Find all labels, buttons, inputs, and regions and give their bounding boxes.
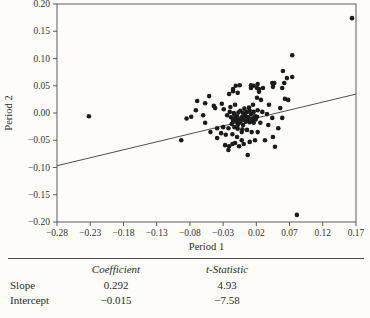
data-point: [237, 144, 242, 149]
data-point: [249, 130, 254, 135]
data-point: [235, 135, 240, 140]
data-point: [237, 83, 242, 88]
data-point: [251, 103, 256, 108]
data-point: [240, 127, 245, 132]
intercept-t-statistic-value: −7.58: [175, 294, 279, 307]
data-point: [290, 75, 295, 80]
y-tick-label: −0.20: [28, 217, 50, 227]
regression-table: Coefficient t-Statistic Slope 0.292 4.93…: [0, 258, 370, 307]
y-tick-label: 0.20: [33, 0, 50, 9]
data-point: [257, 87, 262, 92]
data-point: [295, 213, 300, 218]
col-header-t-statistic: t-Statistic: [175, 263, 279, 276]
data-point: [225, 113, 230, 118]
data-point: [286, 98, 291, 103]
data-point: [263, 138, 268, 143]
data-point: [280, 86, 285, 91]
data-point: [266, 123, 271, 128]
data-point: [253, 138, 258, 143]
data-point: [231, 89, 236, 94]
x-tick-label: −0.08: [179, 228, 201, 238]
data-point: [233, 103, 238, 108]
data-point: [247, 140, 252, 145]
data-point: [87, 114, 92, 119]
data-point: [241, 142, 246, 147]
table-row-slope: Slope 0.292 4.93: [0, 276, 370, 292]
data-point: [227, 92, 232, 97]
data-point: [281, 69, 286, 74]
data-point: [239, 118, 244, 123]
x-tick-label: 0.17: [348, 228, 365, 238]
data-point: [184, 116, 189, 121]
data-point: [221, 125, 226, 130]
figure-page: −0.28−0.23−0.18−0.13−0.08−0.030.020.070.…: [0, 0, 370, 318]
data-point: [203, 121, 208, 126]
data-point: [223, 143, 228, 148]
data-point: [255, 82, 260, 87]
y-tick-label: −0.05: [28, 135, 50, 145]
data-point: [219, 131, 224, 136]
data-point: [290, 53, 295, 58]
data-point: [189, 115, 194, 120]
data-point: [235, 91, 240, 96]
data-point: [236, 110, 241, 115]
y-tick-label: 0.05: [33, 81, 50, 91]
data-point: [261, 86, 266, 91]
slope-t-statistic-value: 4.93: [175, 279, 279, 292]
y-tick-label: 0.15: [33, 26, 50, 36]
data-point: [255, 130, 260, 135]
data-point: [195, 99, 200, 104]
row-label: Intercept: [0, 294, 57, 307]
data-point: [234, 119, 239, 124]
table-row-intercept: Intercept −0.015 −7.58: [0, 292, 370, 307]
y-tick-label: 0.10: [33, 54, 50, 64]
data-point: [258, 121, 263, 126]
x-axis-title: Period 1: [189, 241, 224, 252]
data-point: [253, 117, 258, 122]
x-tick-label: 0.12: [314, 228, 331, 238]
data-point: [280, 116, 285, 121]
x-tick-label: −0.03: [212, 228, 234, 238]
data-point: [229, 122, 234, 127]
intercept-coefficient-value: −0.015: [57, 294, 175, 307]
data-point: [207, 94, 212, 99]
data-point: [270, 116, 275, 121]
data-point: [226, 148, 231, 153]
data-point: [255, 108, 260, 113]
data-point: [233, 83, 238, 88]
x-tick-label: −0.18: [112, 228, 134, 238]
data-point: [179, 138, 184, 143]
data-point: [285, 76, 290, 81]
data-point: [230, 132, 235, 137]
data-point: [208, 130, 213, 135]
data-point: [223, 133, 228, 138]
data-point: [201, 113, 206, 118]
data-point: [226, 126, 231, 131]
data-point: [278, 106, 283, 111]
data-point: [260, 110, 265, 115]
x-tick-label: −0.23: [79, 228, 101, 238]
data-point: [242, 112, 247, 117]
y-axis-title: Period 2: [3, 95, 14, 130]
x-tick-label: −0.28: [46, 228, 68, 238]
data-point: [271, 135, 276, 140]
data-point: [213, 106, 218, 111]
y-tick-label: 0.00: [33, 108, 50, 118]
plot-frame: [57, 4, 356, 222]
data-point: [245, 128, 250, 133]
data-point: [247, 105, 252, 110]
data-point: [276, 126, 281, 131]
data-point: [251, 110, 256, 115]
data-point: [245, 153, 250, 158]
scatter-plot: −0.28−0.23−0.18−0.13−0.08−0.030.020.070.…: [0, 0, 370, 258]
slope-coefficient-value: 0.292: [57, 279, 175, 292]
data-point: [203, 101, 208, 106]
data-point: [282, 81, 287, 86]
data-point: [228, 105, 233, 110]
col-header-coefficient: Coefficient: [57, 263, 175, 276]
data-point: [230, 142, 235, 147]
data-point: [265, 112, 270, 117]
data-point: [259, 98, 264, 103]
y-tick-label: −0.10: [28, 163, 50, 173]
data-point: [215, 136, 220, 141]
